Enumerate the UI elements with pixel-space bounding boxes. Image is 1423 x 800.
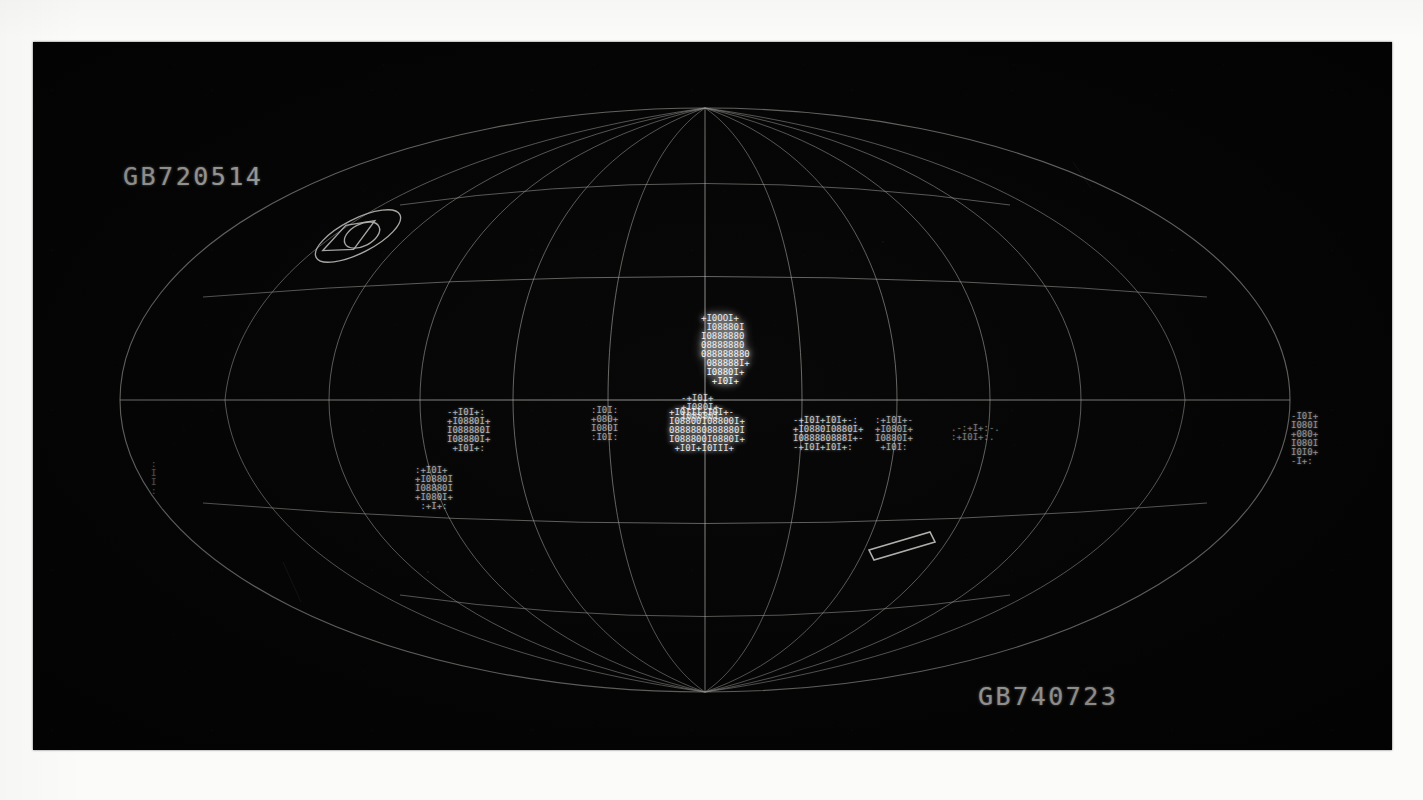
error-box-gb720514 (308, 200, 407, 273)
cluster-ridge-clump-west: -+I0I+: +I0880I+ I088880I I08880I+ +I0I+… (447, 408, 490, 453)
cluster-galactic-center-source: +I0OOI+ I08880I I0888880 08888880 088888… (701, 314, 750, 386)
burst-label-gb740723: GB740723 (978, 682, 1118, 711)
error-box-gb740723 (869, 532, 935, 560)
cluster-ridge-clump-far-east: .-:+I+:-. :+I0I+:. (951, 424, 1000, 442)
cluster-anticenter-right-limb: -I0I+ I080I +080+ I080I I0I0+ -I+: (1291, 412, 1318, 466)
sky-map-plate: +I0OOI+ I08880I I0888880 08888880 088888… (33, 42, 1392, 750)
cluster-ridge-extension-east: -+I0I+I0I+-: +I0880I0880I+ I088880888I+-… (793, 416, 863, 452)
burst-label-gb720514: GB720514 (123, 162, 263, 191)
cluster-west-below-plane: :+I0I+ +I0880I I08880I +I080I+ :+I+: (415, 466, 453, 511)
cluster-mid-west: :I0I: +080+ I080I :I0I: (591, 406, 618, 442)
plate-defects (283, 162, 1091, 602)
cluster-anticenter-left-limb: : I I : (151, 460, 156, 496)
cluster-ridge-upper-spur: -+I0I+ +I080I+ I08880I (681, 394, 719, 421)
scanned-page: +I0OOI+ I08880I I0888880 08888880 088888… (0, 0, 1423, 800)
cluster-ridge-clump-east-outer: :+I0I+- +I080I+ I0880I+ +I0I: (875, 416, 913, 452)
